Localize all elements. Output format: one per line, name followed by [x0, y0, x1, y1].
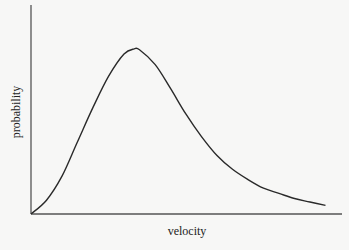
- x-axis-label: velocity: [168, 224, 207, 238]
- chart: velocity probability: [0, 0, 349, 250]
- chart-svg: velocity probability: [0, 0, 349, 250]
- distribution-curve: [31, 48, 326, 214]
- y-axis-label: probability: [9, 86, 23, 139]
